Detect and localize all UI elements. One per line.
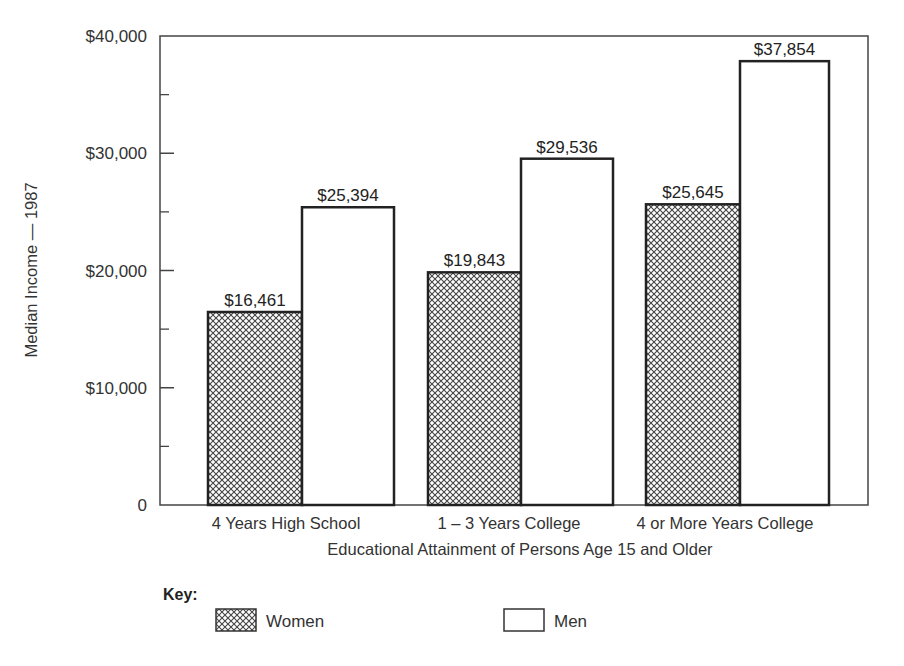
x-category-label: 1 – 3 Years College [437, 514, 580, 532]
legend-label-women: Women [266, 612, 324, 631]
bar-men [302, 207, 394, 505]
y-tick-label: $10,000 [86, 379, 147, 398]
bar-chart: 0$10,000$20,000$30,000$40,000 $16,461$25… [0, 0, 904, 666]
bar-value-label: $29,536 [536, 138, 597, 157]
bar-value-label: $16,461 [224, 291, 285, 310]
y-tick-label: $30,000 [86, 144, 147, 163]
legend-label-men: Men [554, 612, 587, 631]
legend: Key: Women Men [163, 586, 587, 631]
bar-men [740, 61, 829, 505]
legend-item-men: Men [504, 609, 587, 631]
bar-value-label: $19,843 [444, 251, 505, 270]
bar-value-label: $25,645 [662, 183, 723, 202]
x-category-label: 4 or More Years College [636, 514, 813, 532]
x-axis: 4 Years High School1 – 3 Years College4 … [212, 514, 814, 532]
y-tick-label: 0 [138, 496, 147, 515]
legend-item-women: Women [216, 609, 324, 631]
plain-swatch-icon [504, 609, 544, 631]
bar-men [521, 159, 613, 505]
bars-group: $16,461$25,394$19,843$29,536$25,645$37,8… [208, 40, 829, 505]
crosshatch-swatch-icon [216, 609, 256, 631]
y-tick-label: $20,000 [86, 262, 147, 281]
legend-title: Key: [163, 586, 198, 603]
x-axis-title: Educational Attainment of Persons Age 15… [327, 540, 713, 558]
bar-group: $16,461$25,394 [208, 186, 394, 505]
bar-value-label: $25,394 [317, 186, 378, 205]
bar-value-label: $37,854 [754, 40, 815, 59]
bar-group: $25,645$37,854 [646, 40, 829, 505]
bar-women [208, 312, 302, 505]
y-tick-label: $40,000 [86, 27, 147, 46]
bar-group: $19,843$29,536 [428, 138, 613, 505]
bar-women [428, 272, 521, 505]
bar-women [646, 204, 740, 505]
x-category-label: 4 Years High School [212, 514, 361, 532]
y-axis-title: Median Income — 1987 [22, 182, 40, 357]
